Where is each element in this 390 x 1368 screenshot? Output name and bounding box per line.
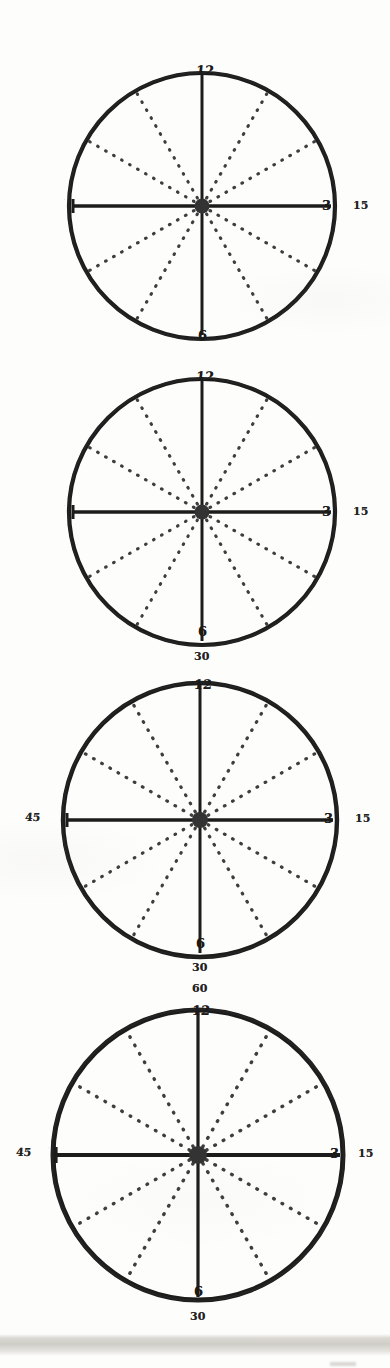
- clock-4-label-30: 30: [190, 1311, 205, 1322]
- clock-2-label-9: 9: [64, 505, 65, 506]
- clock-1-hub: [195, 199, 210, 214]
- clock-1-label-3: 3: [322, 199, 331, 212]
- clock-3-label-12: 12: [193, 678, 212, 691]
- scan-artifact-band: [0, 1334, 390, 1356]
- clock-3-label-6: 6: [196, 937, 205, 950]
- clock-4-drawing: [48, 1005, 348, 1305]
- clock-3-label-30: 30: [192, 962, 207, 973]
- clock-2-hub: [195, 505, 210, 520]
- clock-face-1: [65, 69, 339, 343]
- clock-4-label-15: 15: [358, 1148, 373, 1159]
- scan-artifact-smudge: [330, 1362, 356, 1366]
- clock-4-label-6: 6: [194, 1285, 203, 1298]
- clock-2-label-30: 30: [194, 651, 209, 662]
- clock-3-drawing: [59, 679, 341, 961]
- clock-4-label-9: 9: [48, 1147, 49, 1148]
- clock-2-label-15: 15: [353, 506, 368, 517]
- clock-4-label-12: 12: [191, 1004, 210, 1017]
- clock-3-label-9: 9: [59, 812, 60, 813]
- clock-1-label-6: 6: [198, 329, 207, 342]
- clock-1-label-9: 9: [64, 199, 65, 200]
- clock-4-hub: [189, 1146, 207, 1164]
- clock-3-label-15: 15: [355, 813, 370, 824]
- clock-2-label-12: 12: [195, 370, 214, 383]
- clock-4-label-60: 60: [192, 983, 207, 994]
- clock-2-drawing: [65, 375, 339, 649]
- clock-1-label-15: 15: [353, 200, 368, 211]
- clock-1-label-12: 12: [195, 64, 214, 77]
- clock-2-label-6: 6: [198, 625, 207, 638]
- clock-1-drawing: [65, 69, 339, 343]
- clock-4-label-45: 45: [15, 1147, 31, 1158]
- clock-3-label-45: 45: [24, 812, 40, 823]
- clock-3-label-3: 3: [324, 812, 333, 825]
- clock-face-4: [48, 1005, 348, 1305]
- clock-face-3: [59, 679, 341, 961]
- clock-2-label-3: 3: [322, 505, 331, 518]
- clock-4-label-3: 3: [330, 1147, 339, 1160]
- clock-face-2: [65, 375, 339, 649]
- clock-3-hub: [192, 812, 208, 828]
